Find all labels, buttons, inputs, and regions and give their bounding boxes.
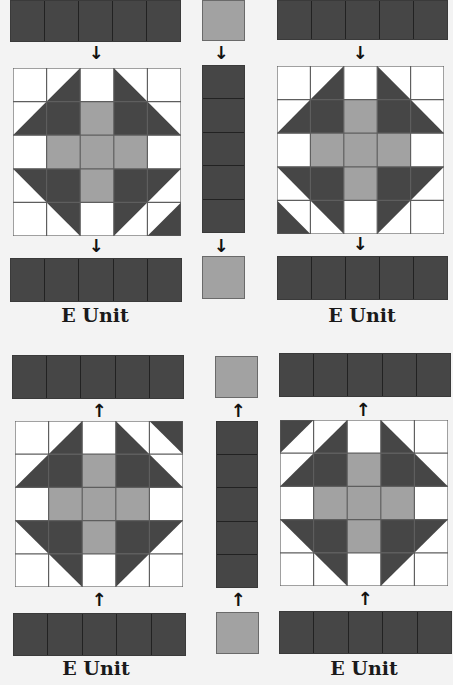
strip-top-left-top: [10, 0, 181, 42]
arrow-down-icon: ↓: [350, 44, 370, 62]
unit-label-bottom-right: E Unit: [284, 657, 444, 679]
arrow-down-icon: ↓: [86, 44, 106, 62]
quilt-block-bottom-right: [280, 420, 448, 586]
square-bottom-center-bottom: [216, 612, 259, 654]
strip-bottom-left-top: [12, 355, 184, 399]
arrow-up-icon: ↑: [89, 591, 109, 609]
strip-bottom-right-top: [279, 353, 451, 397]
square-top-center-top: [202, 0, 245, 41]
arrow-down-icon: ↓: [86, 237, 106, 255]
arrow-up-icon: ↑: [89, 402, 109, 420]
quilt-block-bottom-left: [15, 421, 183, 587]
unit-label-bottom-left: E Unit: [16, 657, 176, 679]
arrow-down-icon: ↓: [350, 235, 370, 253]
strip-bottom-left-bottom: [13, 613, 186, 656]
unit-label-top-right: E Unit: [282, 304, 442, 326]
arrow-up-icon: ↑: [228, 402, 248, 420]
arrow-up-icon: ↑: [228, 591, 248, 609]
strip-top-right-top: [277, 0, 448, 40]
square-bottom-center-top: [215, 356, 258, 398]
strip-bottom-right-bottom: [279, 611, 452, 654]
strip-top-center-column: [202, 65, 245, 233]
unit-label-top-left: E Unit: [15, 304, 175, 326]
arrow-down-icon: ↓: [211, 44, 231, 62]
strip-top-left-bottom: [10, 258, 182, 302]
quilt-block-top-right: [277, 66, 444, 234]
arrow-up-icon: ↑: [353, 401, 373, 419]
arrow-down-icon: ↓: [211, 237, 231, 255]
quilt-block-top-left: [13, 68, 181, 236]
strip-bottom-center-column: [216, 421, 258, 588]
arrow-up-icon: ↑: [355, 590, 375, 608]
strip-top-right-bottom: [277, 256, 448, 300]
square-top-center-bottom: [202, 256, 245, 299]
